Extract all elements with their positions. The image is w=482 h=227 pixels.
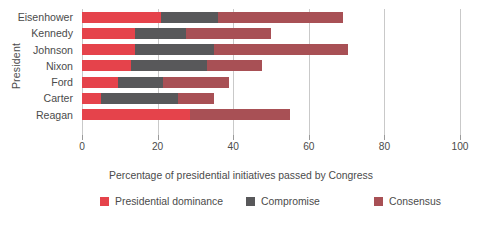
stacked-bar[interactable]	[82, 77, 229, 88]
bar-row	[82, 74, 460, 90]
bar-segment[interactable]	[178, 93, 214, 104]
y-tick-label: Kennedy	[0, 25, 78, 41]
bar-row	[82, 42, 460, 58]
x-tick-label: 100	[452, 141, 469, 152]
legend-label: Consensus	[389, 196, 441, 207]
bar-segment[interactable]	[161, 12, 218, 23]
bar-segment[interactable]	[101, 93, 178, 104]
bar-segment[interactable]	[218, 12, 343, 23]
legend-swatch-icon	[246, 197, 255, 206]
x-tick-mark	[309, 135, 310, 140]
bar-row	[82, 9, 460, 25]
x-tick-label: 0	[79, 141, 85, 152]
legend-item[interactable]: Compromise	[246, 196, 320, 207]
bar-row	[82, 58, 460, 74]
plot-area	[82, 9, 460, 135]
stacked-bar[interactable]	[82, 60, 262, 71]
legend-label: Compromise	[261, 196, 320, 207]
x-tick-label: 80	[379, 141, 390, 152]
y-tick-label: Carter	[0, 90, 78, 106]
y-tick-label: Reagan	[0, 107, 78, 123]
bar-segment[interactable]	[82, 93, 101, 104]
x-tick-mark	[384, 135, 385, 140]
bar-segment[interactable]	[186, 28, 271, 39]
legend-label: Presidential dominance	[115, 196, 223, 207]
bar-segment[interactable]	[118, 77, 163, 88]
bar-rows	[82, 9, 460, 123]
bar-segment[interactable]	[207, 60, 262, 71]
x-tick-mark	[158, 135, 159, 140]
bar-segment[interactable]	[82, 77, 118, 88]
bar-row	[82, 107, 460, 123]
stacked-bar[interactable]	[82, 28, 271, 39]
legend-item[interactable]: Presidential dominance	[100, 196, 223, 207]
bar-segment[interactable]	[190, 109, 290, 120]
y-tick-label: Nixon	[0, 58, 78, 74]
legend-item[interactable]: Consensus	[374, 196, 441, 207]
chart-figure: President Eisenhower Kennedy Johnson Nix…	[0, 0, 482, 227]
x-tick-label: 60	[303, 141, 314, 152]
x-axis: 020406080100	[82, 135, 460, 136]
x-tick-mark	[82, 135, 83, 140]
x-tick-label: 20	[152, 141, 163, 152]
bar-segment[interactable]	[214, 44, 348, 55]
bar-segment[interactable]	[131, 60, 207, 71]
y-tick-label: Johnson	[0, 42, 78, 58]
y-axis-category-labels: Eisenhower Kennedy Johnson Nixon Ford Ca…	[0, 9, 78, 123]
bar-row	[82, 25, 460, 41]
bar-segment[interactable]	[82, 109, 190, 120]
x-tick-mark	[233, 135, 234, 140]
bar-segment[interactable]	[163, 77, 229, 88]
bar-row	[82, 90, 460, 106]
x-tick-label: 40	[228, 141, 239, 152]
y-tick-label: Eisenhower	[0, 9, 78, 25]
stacked-bar[interactable]	[82, 93, 214, 104]
gridline	[460, 9, 461, 135]
y-tick-label: Ford	[0, 74, 78, 90]
stacked-bar[interactable]	[82, 44, 348, 55]
bar-segment[interactable]	[82, 60, 131, 71]
bar-segment[interactable]	[82, 12, 161, 23]
chart-legend: Presidential dominanceCompromiseConsensu…	[0, 196, 482, 212]
bar-segment[interactable]	[82, 44, 135, 55]
legend-swatch-icon	[374, 197, 383, 206]
bar-segment[interactable]	[82, 28, 135, 39]
stacked-bar[interactable]	[82, 12, 343, 23]
stacked-bar[interactable]	[82, 109, 290, 120]
legend-swatch-icon	[100, 197, 109, 206]
x-axis-title: Percentage of presidential initiatives p…	[0, 170, 482, 181]
x-tick-mark	[460, 135, 461, 140]
bar-segment[interactable]	[135, 44, 214, 55]
bar-segment[interactable]	[135, 28, 186, 39]
